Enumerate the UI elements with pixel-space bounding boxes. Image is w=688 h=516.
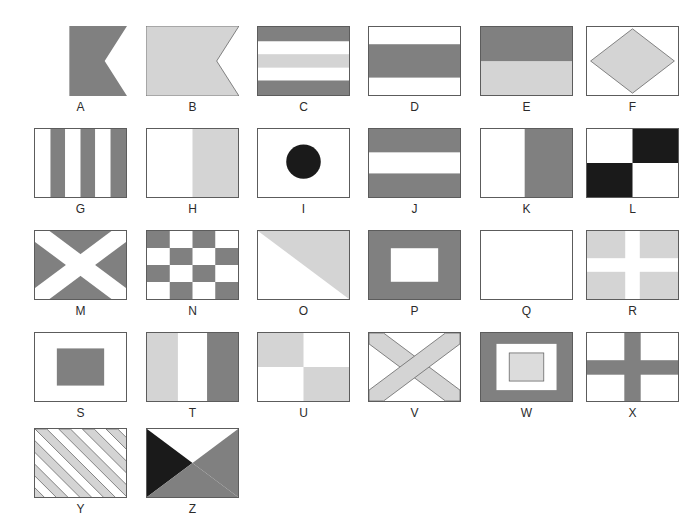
flag-label-l: L	[576, 202, 688, 216]
flag-cell-a[interactable]: A	[24, 26, 137, 114]
flag-cell-s[interactable]: S	[24, 332, 137, 420]
flag-cell-x[interactable]: X	[576, 332, 688, 420]
flag-cell-l[interactable]: L	[576, 128, 688, 216]
flag-cell-h[interactable]: H	[136, 128, 249, 216]
flag-label-v: V	[358, 406, 471, 420]
flag-label-k: K	[470, 202, 583, 216]
flag-glyph-hotel-icon	[146, 128, 239, 198]
flag-label-w: W	[470, 406, 583, 420]
flag-label-r: R	[576, 304, 688, 318]
flag-cell-j[interactable]: J	[358, 128, 471, 216]
flag-glyph-mike-icon	[34, 230, 127, 300]
flag-glyph-kilo-icon	[480, 128, 573, 198]
flag-label-j: J	[358, 202, 471, 216]
flag-label-d: D	[358, 100, 471, 114]
flag-glyph-whiskey-icon	[480, 332, 573, 402]
flag-cell-i[interactable]: I	[247, 128, 360, 216]
flag-glyph-foxtrot-icon	[586, 26, 679, 96]
flag-cell-c[interactable]: C	[247, 26, 360, 114]
flag-cell-u[interactable]: U	[247, 332, 360, 420]
flag-cell-g[interactable]: G	[24, 128, 137, 216]
flag-label-p: P	[358, 304, 471, 318]
flag-cell-k[interactable]: K	[470, 128, 583, 216]
flag-label-h: H	[136, 202, 249, 216]
flag-cell-y[interactable]: Y	[24, 428, 137, 516]
flag-label-c: C	[247, 100, 360, 114]
flag-cell-e[interactable]: E	[470, 26, 583, 114]
flag-cell-z[interactable]: Z	[136, 428, 249, 516]
flag-glyph-zulu-icon	[146, 428, 239, 498]
flag-label-q: Q	[470, 304, 583, 318]
flag-glyph-tango-icon	[146, 332, 239, 402]
flag-cell-v[interactable]: V	[358, 332, 471, 420]
flag-cell-q[interactable]: Q	[470, 230, 583, 318]
flag-glyph-echo-icon	[480, 26, 573, 96]
flag-glyph-golf-icon	[34, 128, 127, 198]
flag-label-n: N	[136, 304, 249, 318]
flag-glyph-india-icon	[257, 128, 350, 198]
flag-glyph-delta-icon	[368, 26, 461, 96]
flag-label-a: A	[24, 100, 137, 114]
flag-label-u: U	[247, 406, 360, 420]
flag-label-z: Z	[136, 502, 249, 516]
flag-glyph-november-icon	[146, 230, 239, 300]
flag-cell-p[interactable]: P	[358, 230, 471, 318]
flag-cell-r[interactable]: R	[576, 230, 688, 318]
flag-label-b: B	[136, 100, 249, 114]
flag-glyph-sierra-icon	[34, 332, 127, 402]
flag-glyph-lima-icon	[586, 128, 679, 198]
flag-label-t: T	[136, 406, 249, 420]
flag-cell-n[interactable]: N	[136, 230, 249, 318]
flag-label-g: G	[24, 202, 137, 216]
flag-label-o: O	[247, 304, 360, 318]
flag-glyph-oscar-icon	[257, 230, 350, 300]
flag-glyph-yankee-icon	[34, 428, 127, 498]
flag-glyph-charlie-icon	[257, 26, 350, 96]
flag-glyph-bravo-icon	[146, 26, 239, 96]
flag-cell-b[interactable]: B	[136, 26, 249, 114]
flag-label-y: Y	[24, 502, 137, 516]
flag-cell-d[interactable]: D	[358, 26, 471, 114]
flag-glyph-uniform-icon	[257, 332, 350, 402]
flag-glyph-romeo-icon	[586, 230, 679, 300]
flag-glyph-victor-icon	[368, 332, 461, 402]
flag-cell-w[interactable]: W	[470, 332, 583, 420]
flag-label-f: F	[576, 100, 688, 114]
flag-cell-f[interactable]: F	[576, 26, 688, 114]
flag-glyph-quebec-icon	[480, 230, 573, 300]
flag-cell-o[interactable]: O	[247, 230, 360, 318]
flag-glyph-juliett-icon	[368, 128, 461, 198]
flag-label-i: I	[247, 202, 360, 216]
flag-label-m: M	[24, 304, 137, 318]
flag-cell-t[interactable]: T	[136, 332, 249, 420]
flag-label-x: X	[576, 406, 688, 420]
flag-label-s: S	[24, 406, 137, 420]
flag-glyph-xray-icon	[586, 332, 679, 402]
flag-glyph-alfa-icon	[34, 26, 127, 96]
flag-label-e: E	[470, 100, 583, 114]
flag-cell-m[interactable]: M	[24, 230, 137, 318]
flag-glyph-papa-icon	[368, 230, 461, 300]
